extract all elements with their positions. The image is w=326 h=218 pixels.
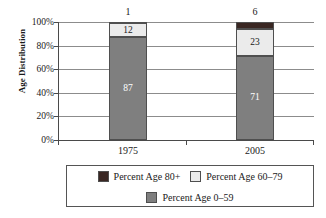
bar-total-label-2005: 6 [225, 7, 285, 17]
legend-swatch-icon-age-80plus [98, 171, 109, 182]
y-tick-label-40: 40% [8, 89, 54, 99]
y-tick-label-0: 0% [8, 136, 54, 146]
x-tick-mark-right [313, 140, 314, 145]
x-tick-label-1975: 1975 [98, 145, 158, 156]
bar-total-label-1975: 1 [98, 7, 158, 17]
bar-1975[interactable]: 12 87 [109, 22, 147, 140]
gridline-80 [59, 46, 314, 47]
legend-swatch-icon-age-60-79 [190, 171, 201, 182]
gridline-40 [59, 93, 314, 94]
gridline-100 [59, 22, 314, 23]
legend: Percent Age 80+ Percent Age 60–79 Percen… [66, 165, 314, 207]
segment-1975-age-0-59[interactable]: 87 [109, 37, 147, 140]
segment-2005-age-60-79[interactable]: 23 [236, 29, 274, 56]
bar-2005[interactable]: 23 71 [236, 22, 274, 140]
segment-1975-age-60-79[interactable]: 12 [109, 23, 147, 37]
legend-label-age-60-79: Percent Age 60–79 [206, 172, 282, 182]
x-tick-mark-left [58, 140, 59, 145]
y-tick-label-20: 20% [8, 112, 54, 122]
legend-label-age-0-59: Percent Age 0–59 [162, 193, 233, 203]
legend-swatch-icon-age-0-59 [146, 192, 157, 203]
plot-area [58, 22, 313, 140]
y-tick-mark-100 [54, 22, 59, 23]
legend-item-age-60-79[interactable]: Percent Age 60–79 [190, 171, 282, 182]
segment-2005-age-0-59[interactable]: 71 [236, 56, 274, 140]
x-tick-label-2005: 2005 [225, 145, 285, 156]
gridline-60 [59, 69, 314, 70]
gridline-20 [59, 116, 314, 117]
legend-row-2: Percent Age 0–59 [67, 187, 313, 208]
y-tick-mark-40 [54, 93, 59, 94]
legend-row-1: Percent Age 80+ Percent Age 60–79 [67, 166, 313, 187]
y-tick-label-80: 80% [8, 42, 54, 52]
legend-label-age-80plus: Percent Age 80+ [114, 172, 181, 182]
y-tick-mark-80 [54, 46, 59, 47]
legend-item-age-0-59[interactable]: Percent Age 0–59 [146, 192, 233, 203]
stacked-bar-chart: Age Distribution 100% 80% 60% 40% 20% 0%… [0, 0, 326, 218]
y-tick-label-100: 100% [8, 18, 54, 28]
y-tick-mark-20 [54, 116, 59, 117]
y-tick-label-60: 60% [8, 65, 54, 75]
y-tick-mark-60 [54, 69, 59, 70]
x-tick-mark-middle [186, 140, 187, 145]
legend-item-age-80plus[interactable]: Percent Age 80+ [98, 171, 181, 182]
